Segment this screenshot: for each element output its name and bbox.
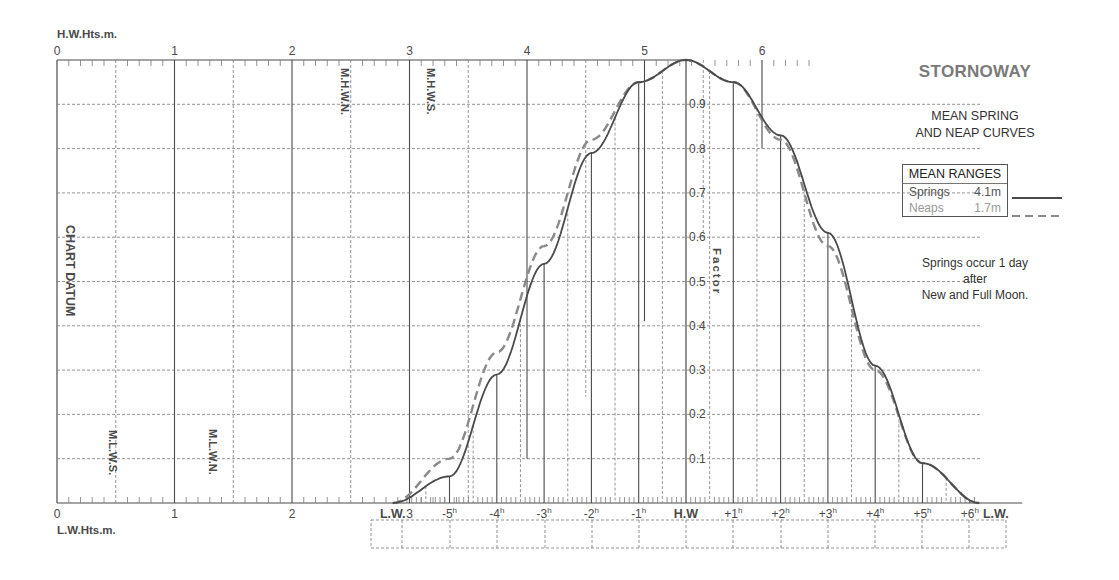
note-line-2: after <box>880 271 1070 287</box>
hw-height-tick-label: 0 <box>54 44 61 58</box>
springs-range: 4.1m <box>974 184 1001 200</box>
factor-tick-label: 0.5 <box>689 275 706 289</box>
factor-tick-label: 0.7 <box>689 186 706 200</box>
factor-tick-label: 0.6 <box>689 230 706 244</box>
mhwn-label: M.H.W.N. <box>339 68 351 115</box>
factor-axis-label: Factor <box>711 248 723 295</box>
hour-tick-label: -1h <box>631 506 646 521</box>
factor-tick-label: 0.9 <box>689 97 706 111</box>
time-entry-boxes <box>371 520 1006 548</box>
subtitle-line-2: AND NEAP CURVES <box>880 125 1070 142</box>
hour-tick-label: +5h <box>913 506 931 521</box>
mlwn-label: M.L.W.N. <box>207 429 219 475</box>
hw-height-tick-label: 2 <box>289 44 296 58</box>
factor-tick-label: 0.4 <box>689 319 706 333</box>
neaps-label: Neaps <box>909 200 944 216</box>
hour-tick-label: +3h <box>819 506 837 521</box>
chart-title: STORNOWAY <box>880 62 1070 82</box>
note-line-3: New and Full Moon. <box>880 287 1070 303</box>
mhws-label: M.H.W.S. <box>425 68 437 114</box>
hour-tick-label: -5h <box>442 506 457 521</box>
hour-tick-label: L.W. <box>380 507 406 521</box>
factor-tick-label: 0.3 <box>689 363 706 377</box>
lw-height-tick-label: 0 <box>54 507 61 521</box>
mlws-label: M.L.W.S. <box>107 430 119 475</box>
legend-heading: MEAN RANGES <box>903 165 1007 184</box>
legend-row-neaps: Neaps 1.7m <box>903 200 1007 216</box>
subtitle-line-1: MEAN SPRING <box>880 108 1070 125</box>
hw-height-tick-label: 4 <box>524 44 531 58</box>
hour-tick-label: H.W <box>674 507 699 521</box>
factor-tick-label: 0.2 <box>689 407 706 421</box>
hw-heights-axis-title: H.W.Hts.m. <box>57 28 117 40</box>
note-line-1: Springs occur 1 day <box>880 255 1070 271</box>
hour-tick-label: -3h <box>537 506 552 521</box>
chart-subtitle: MEAN SPRING AND NEAP CURVES <box>880 108 1070 142</box>
factor-tick-label: 0.1 <box>689 452 706 466</box>
hour-tick-label: +2h <box>772 506 790 521</box>
springs-label: Springs <box>909 184 950 200</box>
hw-height-tick-label: 1 <box>171 44 178 58</box>
hour-tick-label: -2h <box>584 506 599 521</box>
springs-note: Springs occur 1 day after New and Full M… <box>880 255 1070 303</box>
factor-tick-label: 0.8 <box>689 142 706 156</box>
neaps-range: 1.7m <box>974 200 1001 216</box>
hour-tick-label: +4h <box>866 506 884 521</box>
hour-tick-label: +6h <box>961 506 979 521</box>
hour-tick-label: -4h <box>489 506 504 521</box>
legend: MEAN RANGES Springs 4.1m Neaps 1.7m <box>902 164 1008 217</box>
lw-heights-axis-title: L.W.Hts.m. <box>57 524 116 536</box>
hw-height-tick-label: 3 <box>406 44 413 58</box>
lw-height-tick-label: 1 <box>171 507 178 521</box>
chart-datum-label: CHART DATUM <box>63 225 77 316</box>
grid <box>57 60 1022 548</box>
hw-height-tick-label: 6 <box>759 44 766 58</box>
legend-row-springs: Springs 4.1m <box>903 184 1007 200</box>
hour-tick-label: +1h <box>724 506 742 521</box>
hour-tick-label: L.W. <box>983 507 1009 521</box>
hw-height-tick-label: 5 <box>641 44 648 58</box>
lw-height-tick-label: 3 <box>406 507 413 521</box>
lw-height-tick-label: 2 <box>289 507 296 521</box>
